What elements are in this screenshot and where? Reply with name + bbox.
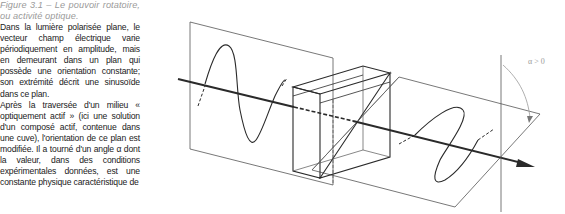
body-text: Dans la lumière polarisée plane, le vect… xyxy=(0,22,140,188)
figure-caption: Figure 3.1 – Le pouvoir rotatoire, ou ac… xyxy=(0,0,140,22)
rotated-sine-dash-right xyxy=(478,129,494,140)
angle-arrow-icon xyxy=(527,116,533,123)
angle-label: α > 0 xyxy=(528,57,545,66)
arrow-head-icon xyxy=(516,159,535,167)
sample-cuvette xyxy=(293,66,399,185)
incident-polarization-plane xyxy=(190,22,333,185)
incident-sine-wave xyxy=(205,45,285,142)
optical-rotation-diagram xyxy=(160,0,565,214)
paragraph-2: Après la traversée d'un milieu « optique… xyxy=(0,100,140,189)
text-column: Figure 3.1 – Le pouvoir rotatoire, ou ac… xyxy=(0,0,140,188)
paragraph-1: Dans la lumière polarisée plane, le vect… xyxy=(0,22,140,100)
rotated-polarization-plane xyxy=(312,77,540,207)
incident-sine-dash-left xyxy=(198,86,205,106)
propagation-axis-hidden xyxy=(294,107,353,121)
propagation-axis-exit xyxy=(353,121,522,163)
